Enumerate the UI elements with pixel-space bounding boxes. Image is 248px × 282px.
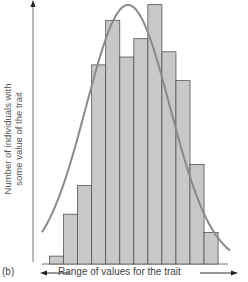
histogram-bar bbox=[134, 39, 148, 264]
histogram-chart bbox=[0, 0, 248, 282]
histogram-bar bbox=[204, 233, 218, 264]
x-axis-label: Range of values for the trait bbox=[58, 266, 181, 277]
histogram-bar bbox=[148, 5, 162, 264]
x-arrow-right-icon bbox=[231, 271, 238, 276]
histogram-bar bbox=[120, 57, 134, 264]
histogram-bar bbox=[64, 214, 78, 264]
y-axis-label-line2: some value of the trait bbox=[13, 44, 24, 234]
histogram-bar bbox=[78, 185, 92, 264]
y-axis-label-line1: Number of individuals with bbox=[2, 44, 13, 234]
histogram-bar bbox=[106, 20, 120, 264]
histogram-bar bbox=[50, 256, 64, 264]
y-axis-arrow-icon bbox=[31, 0, 36, 7]
panel-label: (b) bbox=[2, 266, 14, 277]
bars bbox=[50, 5, 219, 264]
histogram-bar bbox=[190, 164, 204, 264]
x-arrow-left-icon bbox=[40, 271, 47, 276]
histogram-bar bbox=[92, 65, 106, 264]
y-axis-label: Number of individuals with some value of… bbox=[2, 44, 24, 234]
